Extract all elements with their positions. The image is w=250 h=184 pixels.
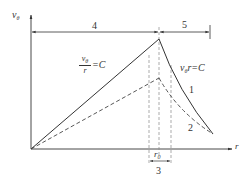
curve-2-free-vortex	[159, 78, 213, 134]
forced-vortex-rhs: =C	[92, 60, 105, 70]
zone-5-label: 5	[182, 20, 187, 30]
free-vortex-rhs: r=C	[187, 62, 204, 73]
curve-1-free-vortex	[159, 39, 213, 134]
curve-2-forced-vortex	[31, 78, 159, 149]
forced-vortex-fraction: vθ r	[79, 55, 91, 75]
y-axis-label-sub: θ	[16, 15, 19, 21]
curve-2-label: 2	[188, 123, 193, 133]
zone-4-label: 4	[92, 21, 97, 31]
curve-1-label: 1	[189, 85, 194, 95]
zone-3-label: 3	[156, 166, 161, 176]
free-vortex-equation: vθr=C	[180, 63, 205, 74]
vortex-velocity-diagram	[0, 0, 250, 184]
y-axis-label: vθ	[12, 10, 19, 21]
core-radius-label: r0	[154, 150, 161, 160]
fraction-denominator: r	[83, 67, 86, 75]
core-radius-sub: 0	[158, 154, 161, 160]
x-axis-label: r	[235, 142, 239, 151]
fraction-numerator: vθ	[82, 55, 89, 64]
forced-vortex-equation: vθ r =C	[79, 55, 105, 75]
